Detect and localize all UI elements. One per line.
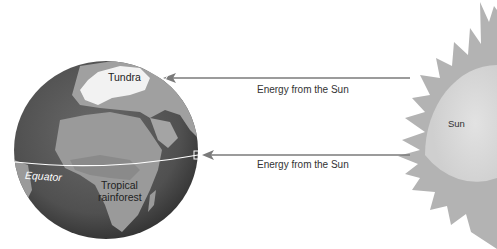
- globe: [14, 60, 201, 239]
- rainforest-label-line1: Tropical: [101, 180, 138, 191]
- equator-label: Equator: [25, 170, 62, 183]
- energy-label-lower: Energy from the Sun: [257, 160, 349, 170]
- energy-label-upper: Energy from the Sun: [257, 85, 349, 95]
- rainforest-label-line2: rainforest: [98, 192, 142, 203]
- energy-diagram: Tundra Equator Tropical rainforest Sun E…: [0, 0, 497, 249]
- tundra-label: Tundra: [108, 72, 141, 83]
- sun-label: Sun: [448, 119, 465, 129]
